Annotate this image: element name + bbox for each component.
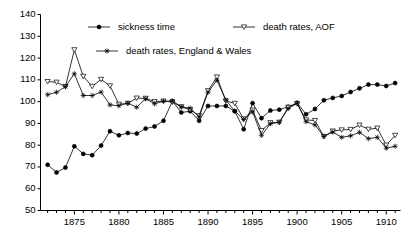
data-point-marker: [63, 166, 67, 170]
data-point-marker: [206, 104, 210, 108]
data-point-marker: [295, 100, 300, 105]
data-point-marker: [107, 84, 112, 89]
x-axis-tick-label: 1875: [54, 217, 94, 227]
data-point-marker: [357, 130, 362, 135]
x-axis-tick-label: 1900: [277, 217, 317, 227]
data-point-marker: [215, 104, 219, 108]
data-point-marker: [144, 127, 148, 131]
data-point-marker: [304, 112, 308, 116]
y-axis-tick-label: 80: [25, 140, 36, 150]
data-point-marker: [313, 107, 317, 111]
legend-item-0[interactable]: [88, 25, 110, 29]
y-axis-tick-label: 140: [20, 9, 36, 19]
data-point-marker: [98, 89, 103, 94]
data-point-marker: [384, 146, 389, 151]
data-point-marker: [277, 120, 282, 125]
data-point-marker: [170, 98, 175, 103]
data-point-marker: [188, 106, 193, 111]
data-point-marker: [393, 144, 398, 149]
data-point-marker: [117, 133, 121, 137]
data-point-marker: [312, 122, 317, 127]
data-point-marker: [303, 119, 308, 124]
data-point-marker: [107, 102, 112, 107]
data-point-marker: [104, 48, 109, 53]
data-point-marker: [152, 101, 157, 106]
data-point-marker: [90, 93, 95, 98]
data-point-marker: [45, 92, 50, 97]
data-point-marker: [224, 104, 228, 108]
x-axis-tick-label: 1890: [188, 217, 228, 227]
data-point-marker: [72, 144, 76, 148]
data-point-marker: [97, 25, 101, 29]
data-point-marker: [358, 86, 362, 90]
x-axis-tick-label: 1895: [233, 217, 273, 227]
data-point-marker: [348, 133, 353, 138]
data-point-marker: [223, 97, 228, 102]
data-point-marker: [72, 71, 77, 76]
data-point-marker: [54, 90, 59, 95]
data-point-marker: [153, 124, 157, 128]
y-axis-tick-label: 70: [25, 161, 36, 171]
y-axis-tick-label: 130: [20, 31, 36, 41]
y-axis-tick-label: 60: [25, 183, 36, 193]
data-point-marker: [46, 163, 50, 167]
data-point-marker: [242, 127, 246, 131]
data-point-marker: [143, 96, 148, 101]
data-point-marker: [72, 48, 77, 53]
axis-frame: [41, 15, 401, 211]
data-point-marker: [135, 132, 139, 136]
data-point-marker: [321, 134, 326, 139]
data-point-marker: [366, 83, 370, 87]
legend-item-1[interactable]: [233, 25, 255, 30]
data-point-marker: [349, 90, 353, 94]
data-point-marker: [125, 101, 130, 106]
data-point-marker: [357, 123, 362, 128]
data-point-marker: [384, 84, 388, 88]
data-point-marker: [179, 104, 184, 109]
data-point-marker: [339, 135, 344, 140]
x-axis-tick-label: 1880: [99, 217, 139, 227]
data-point-marker: [330, 130, 335, 135]
data-point-marker: [161, 119, 165, 123]
data-point-marker: [161, 99, 166, 104]
data-point-marker: [134, 105, 139, 110]
data-point-marker: [116, 103, 121, 108]
data-point-marker: [331, 96, 335, 100]
legend-label: sickness time: [118, 22, 175, 32]
data-point-marker: [366, 136, 371, 141]
data-point-marker: [375, 135, 380, 140]
data-point-marker: [55, 170, 59, 174]
data-point-marker: [259, 116, 263, 120]
data-point-marker: [205, 90, 210, 95]
data-point-marker: [268, 121, 273, 126]
data-point-marker: [214, 78, 219, 83]
data-point-marker: [250, 109, 255, 114]
legend-label: death rates, England & Wales: [126, 46, 251, 56]
data-point-marker: [268, 109, 272, 113]
data-point-marker: [90, 84, 95, 89]
data-point-marker: [90, 153, 94, 157]
data-point-marker: [179, 111, 183, 115]
data-point-marker: [197, 114, 202, 119]
data-point-marker: [63, 84, 68, 89]
x-axis-tick-label: 1885: [143, 217, 183, 227]
data-point-marker: [393, 81, 397, 85]
legend-label: death rates, AOF: [263, 22, 335, 32]
data-point-marker: [375, 83, 379, 87]
data-point-marker: [251, 101, 255, 105]
data-point-marker: [286, 106, 291, 111]
y-axis-tick-label: 110: [20, 74, 35, 84]
series-2: [45, 71, 398, 151]
data-point-marker: [126, 131, 130, 135]
data-point-marker: [99, 144, 103, 148]
series-1: [45, 48, 398, 148]
legend-item-2[interactable]: [96, 48, 118, 53]
chart-plot-area: [0, 0, 409, 236]
y-axis-tick-label: 100: [20, 96, 36, 106]
data-point-marker: [108, 129, 112, 133]
data-point-marker: [232, 101, 237, 106]
data-point-marker: [322, 98, 326, 102]
x-axis-tick-label: 1905: [322, 217, 362, 227]
data-point-marker: [81, 93, 86, 98]
line-chart: 5060708090100110120130140187518801885189…: [0, 0, 409, 236]
